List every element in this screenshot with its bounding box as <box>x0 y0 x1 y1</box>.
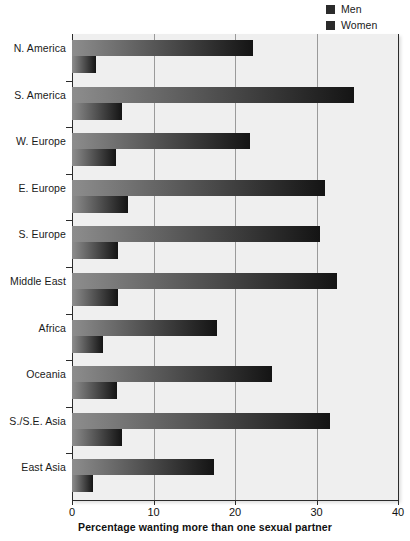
category-label: Africa <box>0 322 66 334</box>
gridline <box>317 34 318 500</box>
category-label: N. America <box>0 42 66 54</box>
y-tick <box>66 407 72 408</box>
gridline <box>235 34 236 500</box>
y-tick <box>66 81 72 82</box>
category-label: Middle East <box>0 275 66 287</box>
x-tick <box>72 500 73 505</box>
x-tick <box>317 500 318 505</box>
legend-label-men: Men <box>341 4 362 14</box>
chart-legend: Men Women <box>326 2 408 34</box>
bar-men <box>72 459 214 475</box>
y-tick <box>66 267 72 268</box>
bar-women <box>72 289 118 306</box>
bar-women <box>72 56 96 73</box>
category-label: W. Europe <box>0 135 66 147</box>
bar-women <box>72 382 117 399</box>
x-tick-label: 10 <box>139 506 169 518</box>
y-tick <box>66 314 72 315</box>
category-label: S. America <box>0 89 66 101</box>
x-tick-label: 20 <box>220 506 250 518</box>
bar-women <box>72 196 128 213</box>
y-tick <box>66 453 72 454</box>
y-tick <box>66 127 72 128</box>
gridline <box>154 34 155 500</box>
bar-men <box>72 320 217 336</box>
x-axis-title: Percentage wanting more than one sexual … <box>0 521 410 533</box>
legend-swatch-women <box>326 21 335 30</box>
legend-label-women: Women <box>341 20 378 30</box>
bar-women <box>72 475 93 492</box>
legend-swatch-men <box>326 5 335 14</box>
bar-men <box>72 180 325 196</box>
bar-men <box>72 87 354 103</box>
category-label: E. Europe <box>0 182 66 194</box>
bar-women <box>72 149 116 166</box>
y-tick <box>66 220 72 221</box>
bar-men <box>72 133 250 149</box>
x-tick-label: 40 <box>383 506 410 518</box>
x-tick-label: 0 <box>57 506 87 518</box>
y-tick <box>66 174 72 175</box>
x-tick-label: 30 <box>302 506 332 518</box>
y-tick <box>66 360 72 361</box>
chart-container: Men Women 010203040 N. AmericaS. America… <box>0 0 410 541</box>
bar-women <box>72 103 122 120</box>
category-label: East Asia <box>0 461 66 473</box>
bar-men <box>72 226 320 242</box>
bar-women <box>72 242 118 259</box>
bar-men <box>72 366 272 382</box>
bar-women <box>72 429 122 446</box>
category-label: Oceania <box>0 368 66 380</box>
category-label: S. Europe <box>0 228 66 240</box>
bar-men <box>72 413 330 429</box>
category-label: S./S.E. Asia <box>0 415 66 427</box>
x-tick <box>398 500 399 505</box>
gridline <box>398 34 399 500</box>
bar-women <box>72 336 103 353</box>
x-tick <box>235 500 236 505</box>
legend-item-women: Women <box>326 18 408 32</box>
bar-men <box>72 273 337 289</box>
legend-item-men: Men <box>326 2 408 16</box>
x-tick <box>154 500 155 505</box>
bar-men <box>72 40 253 56</box>
